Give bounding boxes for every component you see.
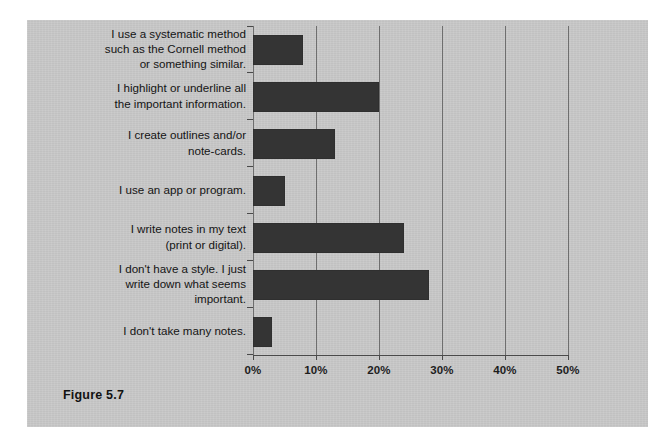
figure-panel: 0%10%20%30%40%50% I use a systematic met… — [27, 20, 648, 427]
bar — [253, 35, 303, 65]
x-axis-tick-label: 20% — [349, 364, 409, 376]
figure-caption: Figure 5.7 — [63, 388, 124, 402]
chart-category-row: I use a systematic method such as the Co… — [27, 26, 648, 73]
bar — [253, 317, 272, 347]
y-axis-tick — [247, 354, 253, 355]
bar — [253, 270, 429, 300]
x-axis-tick-label: 50% — [538, 364, 598, 376]
category-label: I highlight or underline all the importa… — [54, 80, 246, 110]
bar-chart: 0%10%20%30%40%50% I use a systematic met… — [27, 20, 648, 427]
chart-category-row: I write notes in my text (print or digit… — [27, 214, 648, 261]
y-axis-tick — [247, 26, 253, 27]
category-label: I write notes in my text (print or digit… — [54, 221, 246, 251]
x-axis-tick-label: 40% — [475, 364, 535, 376]
category-label: I create outlines and/or note-cards. — [54, 127, 246, 157]
chart-category-row: I create outlines and/or note-cards. — [27, 120, 648, 167]
bar — [253, 129, 335, 159]
category-label: I use an app or program. — [54, 182, 246, 197]
chart-category-row: I don't have a style. I just write down … — [27, 261, 648, 308]
x-axis-tick-label: 0% — [223, 364, 283, 376]
bar — [253, 176, 285, 206]
figure-root: 0%10%20%30%40%50% I use a systematic met… — [0, 0, 670, 445]
bar — [253, 223, 404, 253]
category-label: I use a systematic method such as the Co… — [54, 26, 246, 72]
x-axis-tick-label: 30% — [412, 364, 472, 376]
bar — [253, 82, 379, 112]
chart-category-row: I highlight or underline all the importa… — [27, 73, 648, 120]
category-label: I don't take many notes. — [54, 323, 246, 338]
chart-category-row: I don't take many notes. — [27, 308, 648, 355]
x-axis-line — [253, 355, 569, 356]
category-label: I don't have a style. I just write down … — [54, 261, 246, 307]
chart-category-row: I use an app or program. — [27, 167, 648, 214]
x-axis-tick-label: 10% — [286, 364, 346, 376]
